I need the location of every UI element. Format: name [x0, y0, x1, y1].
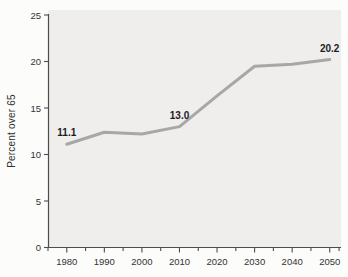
y-tick-label: 20 [30, 56, 41, 67]
y-tick-label: 0 [36, 242, 41, 253]
y-tick-label: 15 [30, 103, 41, 114]
x-tick-label: 2050 [319, 256, 340, 267]
y-tick-label: 10 [30, 149, 41, 160]
x-tick-label: 2010 [169, 256, 190, 267]
y-tick-label: 25 [30, 10, 41, 21]
y-axis-title: Percent over 65 [6, 94, 17, 168]
y-tick-label: 5 [36, 196, 41, 207]
line-chart-svg: 0510152025198019902000201020202030204020… [0, 0, 348, 277]
x-tick-label: 1990 [94, 256, 115, 267]
x-tick-label: 2030 [244, 256, 265, 267]
x-tick-label: 1980 [56, 256, 77, 267]
data-point-label: 20.2 [320, 43, 340, 54]
plot-area [48, 10, 341, 248]
x-tick-label: 2000 [131, 256, 152, 267]
data-point-label: 13.0 [170, 110, 190, 121]
x-tick-label: 2020 [206, 256, 227, 267]
x-tick-label: 2040 [282, 256, 303, 267]
chart: 0510152025198019902000201020202030204020… [0, 0, 348, 277]
data-point-label: 11.1 [57, 127, 76, 138]
